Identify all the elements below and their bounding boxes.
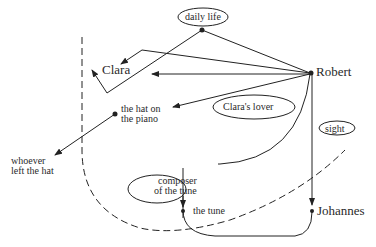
node-hat-line2: the piano [121, 114, 158, 124]
node-clara: Clara [102, 63, 130, 77]
node-the-tune: the tune [193, 206, 225, 216]
node-johannes: Johannes [317, 204, 365, 218]
node-composer-line2: of the tune [154, 186, 197, 196]
node-sight: sight [325, 124, 344, 134]
node-claras-lover: Clara's lover [223, 102, 273, 112]
node-robert: Robert [316, 65, 351, 79]
node-whoever-line2: left the hat [11, 166, 54, 176]
node-daily-life: daily life [185, 12, 221, 22]
